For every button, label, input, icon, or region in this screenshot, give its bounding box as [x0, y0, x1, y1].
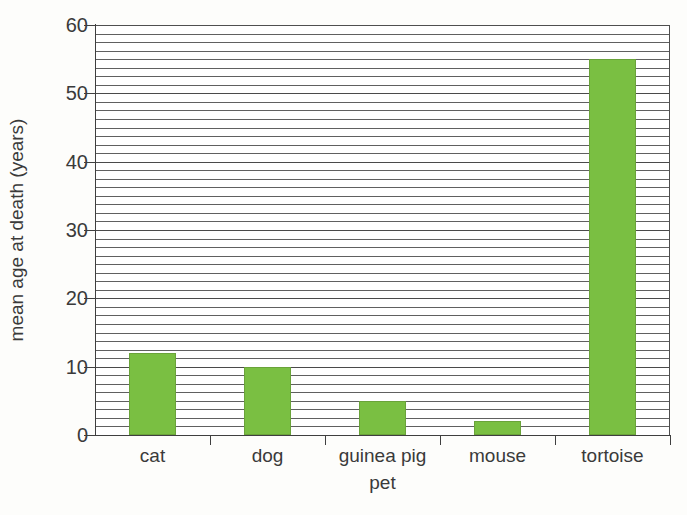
gridline	[95, 136, 670, 137]
gridline	[95, 128, 670, 129]
bar-tortoise	[589, 59, 636, 435]
y-tick-mark	[84, 298, 95, 299]
gridline	[95, 34, 670, 35]
gridline	[95, 170, 670, 171]
gridline	[95, 196, 670, 197]
gridline	[95, 85, 670, 86]
x-tick-mark	[210, 435, 211, 445]
gridline	[95, 76, 670, 77]
plot-area	[95, 25, 670, 435]
gridline	[95, 25, 670, 26]
gridline	[95, 367, 670, 368]
bar-cat	[129, 353, 176, 435]
bar-dog	[244, 367, 291, 435]
gridline	[95, 213, 670, 214]
gridline	[95, 281, 670, 282]
gridline	[95, 110, 670, 111]
gridline	[95, 307, 670, 308]
gridline	[95, 264, 670, 265]
x-tick-mark	[670, 435, 671, 445]
gridline	[95, 42, 670, 43]
gridline	[95, 290, 670, 291]
gridline	[95, 153, 670, 154]
y-axis-line	[95, 24, 96, 436]
gridline	[95, 68, 670, 69]
y-tick-mark	[84, 93, 95, 94]
chart-page: 0102030405060 catdogguinea pigmousetorto…	[0, 0, 687, 515]
gridline	[95, 119, 670, 120]
gridline	[95, 375, 670, 376]
gridline	[95, 392, 670, 393]
gridline	[95, 341, 670, 342]
y-tick-mark	[84, 367, 95, 368]
x-category-label-guinea-pig: guinea pig	[325, 446, 440, 467]
gridline	[95, 187, 670, 188]
gridline	[95, 93, 670, 94]
gridline	[95, 59, 670, 60]
y-tick-mark	[84, 230, 95, 231]
gridline	[95, 324, 670, 325]
gridline	[95, 247, 670, 248]
x-tick-mark	[440, 435, 441, 445]
gridline	[95, 162, 670, 163]
gridline	[95, 384, 670, 385]
gridline	[95, 221, 670, 222]
bar-guinea-pig	[359, 401, 406, 435]
y-axis-title: mean age at death (years)	[4, 25, 30, 435]
x-category-label-mouse: mouse	[440, 446, 555, 467]
x-tick-mark	[325, 435, 326, 445]
gridline	[95, 273, 670, 274]
x-axis-line	[94, 435, 671, 436]
gridline	[95, 145, 670, 146]
gridline	[95, 358, 670, 359]
x-category-label-dog: dog	[210, 446, 325, 467]
x-axis-title: pet	[95, 472, 670, 494]
x-tick-mark	[555, 435, 556, 445]
x-category-label-tortoise: tortoise	[555, 446, 670, 467]
y-tick-mark	[84, 435, 95, 436]
gridline	[95, 51, 670, 52]
gridline	[95, 239, 670, 240]
gridline	[95, 204, 670, 205]
gridline	[95, 315, 670, 316]
gridline	[95, 333, 670, 334]
gridline	[95, 256, 670, 257]
gridline	[95, 230, 670, 231]
gridline	[95, 298, 670, 299]
gridline	[95, 179, 670, 180]
y-tick-mark	[84, 25, 95, 26]
gridline	[95, 350, 670, 351]
y-tick-mark	[84, 162, 95, 163]
gridline	[95, 102, 670, 103]
x-category-label-cat: cat	[95, 446, 210, 467]
bar-mouse	[474, 421, 521, 435]
